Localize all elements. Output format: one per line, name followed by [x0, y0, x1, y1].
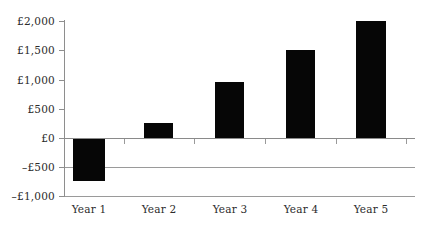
bar-year-5	[356, 21, 386, 138]
bar-chart: £2,000 £1,500 £1,000 £500 £0 –£500 –£1,0…	[0, 0, 423, 232]
bar-year-4	[286, 50, 315, 138]
x-axis-label-year-1: Year 1	[59, 203, 119, 215]
gridline-minus-500	[64, 167, 415, 168]
x-axis-label-year-5: Year 5	[341, 203, 401, 215]
y-tick-minus-500	[59, 167, 65, 168]
y-axis-label-500: £500	[27, 103, 55, 115]
bar-year-1	[73, 139, 105, 181]
y-tick-1000	[59, 80, 65, 81]
y-tick-500	[59, 109, 65, 110]
y-axis-label-1000: £1,000	[17, 74, 55, 86]
y-tick-minus-1000	[59, 196, 65, 197]
x-tick-5	[406, 139, 407, 144]
y-tick-1500	[59, 50, 65, 51]
y-axis-label-0: £0	[41, 132, 55, 144]
bar-year-3	[215, 82, 244, 138]
x-axis-label-year-3: Year 3	[200, 203, 260, 215]
x-axis-label-year-2: Year 2	[129, 203, 189, 215]
x-axis-label-year-4: Year 4	[271, 203, 331, 215]
x-tick-4	[336, 139, 337, 144]
x-tick-3	[265, 139, 266, 144]
y-axis-label-minus-500: –£500	[22, 161, 55, 173]
gridline-minus-1000	[64, 196, 415, 197]
y-axis-label-2000: £2,000	[17, 15, 55, 27]
y-tick-0	[59, 138, 65, 139]
y-axis-label-minus-1000: –£1,000	[12, 190, 55, 202]
y-axis-label-1500: £1,500	[17, 44, 55, 56]
x-tick-2	[194, 139, 195, 144]
plot-area: £2,000 £1,500 £1,000 £500 £0 –£500 –£1,0…	[0, 0, 423, 232]
bar-year-2	[144, 123, 173, 138]
y-tick-2000	[59, 21, 65, 22]
x-tick-1	[124, 139, 125, 144]
gridline-zero	[64, 138, 415, 139]
